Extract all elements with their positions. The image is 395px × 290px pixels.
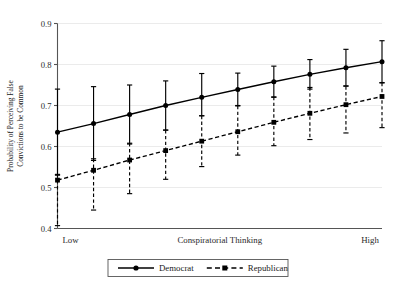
- x-tick-label-high: High: [361, 235, 379, 245]
- data-point: [91, 121, 96, 126]
- axes: [58, 24, 383, 229]
- legend-marker: [133, 265, 138, 270]
- y-gridlines: [58, 24, 383, 229]
- line-chart: 0.40.50.60.70.80.9Probability of Perceiv…: [0, 0, 395, 290]
- y-tick-label: 0.9: [41, 19, 52, 29]
- data-point: [344, 102, 349, 107]
- data-point: [127, 158, 132, 163]
- data-point: [55, 178, 60, 183]
- data-point: [307, 111, 312, 116]
- y-tick-label: 0.7: [41, 101, 52, 111]
- data-point: [380, 94, 385, 99]
- y-axis-title-line: Probability of Perceiving False: [6, 79, 15, 171]
- error-bars: [55, 41, 385, 175]
- y-tick-labels: 0.40.50.60.70.80.9: [41, 19, 58, 234]
- legend-marker: [222, 266, 227, 271]
- data-point: [163, 148, 168, 153]
- x-axis-title: Conspiratorial Thinking: [177, 235, 262, 245]
- data-point: [55, 130, 60, 135]
- data-point: [199, 95, 204, 100]
- data-points: [55, 59, 385, 135]
- data-point: [163, 103, 168, 108]
- data-point: [199, 139, 204, 144]
- legend-label: Democrat: [159, 263, 194, 273]
- series-line: [58, 62, 383, 133]
- data-point: [380, 59, 385, 64]
- data-point: [271, 79, 276, 84]
- y-axis-title: Probability of Perceiving FalseConvictio…: [6, 79, 25, 171]
- x-tick-labels: LowConspiratorial ThinkingHigh: [62, 235, 379, 245]
- x-tick-label-low: Low: [62, 235, 79, 245]
- series-democrat: [55, 41, 385, 175]
- chart-figure: 0.40.50.60.70.80.9Probability of Perceiv…: [0, 0, 395, 290]
- y-tick-label: 0.5: [41, 183, 52, 193]
- data-point: [235, 129, 240, 134]
- y-tick-label: 0.8: [41, 60, 52, 70]
- error-bars: [55, 83, 385, 226]
- data-point: [235, 87, 240, 92]
- series-line: [58, 96, 383, 180]
- legend: DemocratRepublican: [108, 260, 288, 277]
- data-point: [271, 120, 276, 125]
- y-axis-title-line: Convictions to be Common: [16, 85, 25, 167]
- y-tick-label: 0.4: [41, 224, 52, 234]
- data-point: [127, 112, 132, 117]
- series-republican: [55, 83, 385, 226]
- legend-label: Republican: [248, 263, 289, 273]
- data-point: [307, 72, 312, 77]
- data-point: [91, 168, 96, 173]
- y-tick-label: 0.6: [41, 142, 52, 152]
- data-point: [343, 65, 348, 70]
